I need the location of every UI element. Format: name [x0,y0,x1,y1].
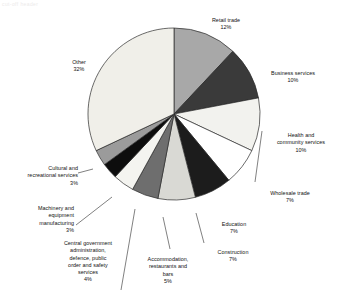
slice-label-text: Retail trade [212,17,240,23]
slice-label-percent: 3% [2,180,78,187]
slice-label-text: Business services [271,70,315,76]
slice-label-percent: 5% [133,278,203,285]
slice-label-text: Education [222,221,246,227]
slice-label-percent: 10% [253,77,333,84]
slice-label-text: Accommodation, restaurants and bars [148,256,189,276]
slice-label-business-services: Business services 10% [253,63,333,92]
slice-label-education: Education 7% [208,214,260,243]
leader-line-machinery [76,197,112,225]
slice-label-text: Central government administration, defen… [64,240,112,275]
slice-label-retail-trade: Retail trade 12% [190,10,262,39]
slice-label-central-government: Central government administration, defen… [54,233,122,291]
leader-line-accommodation [163,217,170,249]
leader-line-construction [196,213,204,243]
slice-label-machinery-equipment: Machinery and equipment manufacturing 3% [6,198,74,241]
slice-label-percent: 7% [252,197,328,204]
slice-label-percent: 7% [208,228,260,235]
slice-label-percent: 10% [259,147,343,154]
slice-label-percent: 7% [205,256,261,263]
slice-label-percent: 4% [54,276,122,283]
slice-label-wholesale-trade: Wholesale trade 7% [252,183,328,212]
slice-label-text: Health and community services [277,132,325,145]
slice-label-text: Other [72,59,86,65]
slice-label-text: Wholesale trade [270,190,310,196]
slice-label-other: Other 32% [55,52,103,81]
slice-label-health-community-services: Health and community services 10% [259,125,343,161]
slice-label-percent: 3% [6,227,74,234]
slice-label-text: Machinery and equipment manufacturing [38,205,74,225]
slice-label-text: Construction [218,249,249,255]
leader-line-cultural [78,169,93,173]
slice-label-percent: 32% [55,66,103,73]
slice-label-percent: 12% [190,24,262,31]
slice-label-cultural-recreational: Cultural and recreational services 3% [2,158,78,194]
pie-slices [88,28,260,200]
slice-label-text: Cultural and recreational services [28,165,78,178]
slice-label-accommodation: Accommodation, restaurants and bars 5% [133,249,203,292]
chart-canvas: cut-off header Retail trade 12% Business… [0,0,347,306]
slice-label-construction: Construction 7% [205,242,261,271]
